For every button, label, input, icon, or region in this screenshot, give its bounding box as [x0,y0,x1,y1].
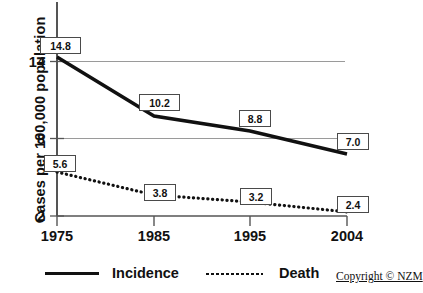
legend-label-death: Death [279,265,319,281]
x-tick-label-1995: 1995 [220,228,280,244]
data-label-death-2004: 2.4 [337,196,369,213]
data-label-death-1995: 3.2 [240,188,272,205]
series-line-incidence [57,57,347,154]
data-label-incidence-1975: 14.8 [40,37,81,54]
data-label-incidence-1985: 10.2 [139,94,180,111]
copyright-notice: Copyright © NZM [336,270,423,282]
x-tick-label-1985: 1985 [124,228,184,244]
legend-swatch-death [205,272,263,276]
data-label-incidence-2004: 7.0 [337,133,369,150]
y-tick-label-2: 2 [19,208,45,224]
data-label-incidence-1995: 8.8 [239,110,271,127]
legend-swatch-incidence [45,272,99,275]
series-line-death [57,172,347,212]
legend-label-incidence: Incidence [112,265,179,281]
x-tick-label-1975: 1975 [27,228,87,244]
x-tick-label-2004: 2004 [317,228,377,244]
y-tick-label-14: 14 [19,54,45,70]
data-label-death-1975: 5.6 [44,155,76,172]
y-tick-label-8: 8 [19,131,45,147]
data-label-death-1985: 3.8 [144,184,176,201]
